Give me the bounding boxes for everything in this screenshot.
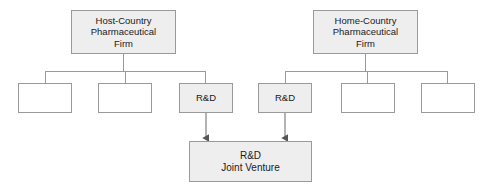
- node-label: Home-Country Pharmaceutical Firm: [314, 15, 417, 49]
- home-tree-connectors: [285, 54, 448, 83]
- node-home-rnd: R&D: [258, 83, 312, 113]
- node-host-division-2: [98, 83, 152, 113]
- host-tree-connectors: [45, 54, 206, 83]
- node-home-division-1: [341, 83, 395, 113]
- node-home-division-2: [421, 83, 475, 113]
- node-home-country-pharmaceutical-firm: Home-Country Pharmaceutical Firm: [313, 10, 418, 54]
- diagram-canvas: Host-Country Pharmaceutical Firm Home-Co…: [0, 0, 493, 195]
- node-host-rnd: R&D: [179, 83, 233, 113]
- node-label: R&D Joint Venture: [190, 150, 311, 174]
- node-label: R&D: [180, 92, 232, 103]
- node-rnd-joint-venture: R&D Joint Venture: [189, 141, 312, 182]
- node-host-division-1: [18, 83, 72, 113]
- node-host-country-pharmaceutical-firm: Host-Country Pharmaceutical Firm: [71, 10, 176, 54]
- joint-venture-arrows: [206, 113, 285, 138]
- node-label: Host-Country Pharmaceutical Firm: [72, 15, 175, 49]
- node-label: R&D: [259, 92, 311, 103]
